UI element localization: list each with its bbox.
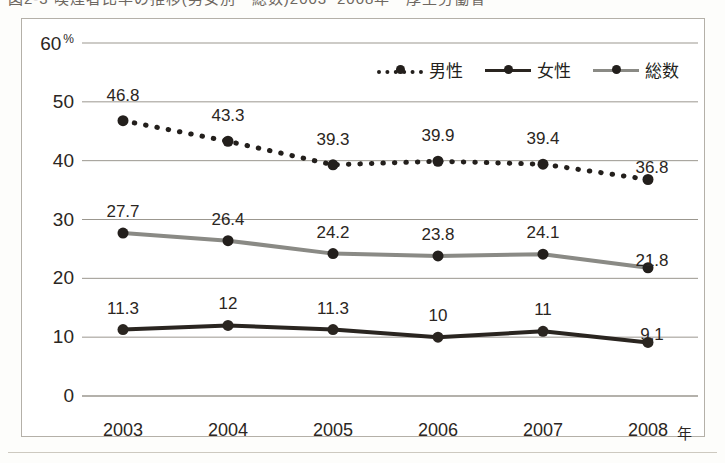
marker-総数-2003 [118, 228, 129, 239]
data-label-総数-2004: 26.4 [188, 211, 268, 228]
y-tick-0: 0 [28, 386, 74, 405]
marker-女性-2007 [538, 326, 549, 337]
data-label-女性-2004: 12 [188, 295, 268, 312]
legend-label: 男性 [429, 57, 463, 82]
legend-label: 総数 [645, 57, 679, 82]
marker-男性-2005 [328, 159, 339, 170]
legend-item-総数: 総数 [593, 57, 679, 82]
marker-女性-2006 [433, 332, 444, 343]
y-axis-percent-symbol: % [63, 32, 74, 46]
legend-marker-icon-女性 [485, 64, 531, 76]
chart-legend: 男性女性総数 [377, 57, 679, 82]
data-label-総数-2007: 24.1 [503, 224, 583, 241]
data-label-男性-2006: 39.9 [398, 127, 478, 144]
y-tick-40: 40 [28, 151, 74, 170]
data-label-男性-2003: 46.8 [83, 87, 163, 104]
data-label-男性-2004: 43.3 [188, 107, 268, 124]
marker-男性-2007 [538, 159, 549, 170]
data-label-女性-2007: 11 [503, 301, 583, 318]
marker-男性-2004 [223, 136, 234, 147]
x-tick-2003: 2003 [78, 420, 168, 441]
cropped-title-text: 図2-3 喫煙者比率の推移(男女別・総数)2003~2008年・厚生労働省 [8, 0, 486, 8]
data-label-女性-2005: 11.3 [293, 300, 373, 317]
series-line-女性 [123, 325, 648, 342]
legend-dot-icon [504, 65, 513, 74]
data-label-総数-2003: 27.7 [83, 203, 163, 220]
marker-女性-2004 [223, 320, 234, 331]
marker-総数-2004 [223, 235, 234, 246]
y-tick-10: 10 [28, 327, 74, 346]
legend-item-男性: 男性 [377, 57, 463, 82]
legend-marker-icon-男性 [377, 64, 423, 76]
legend-label: 女性 [537, 57, 571, 82]
data-label-総数-2008: 21.8 [612, 252, 692, 269]
marker-女性-2005 [328, 324, 339, 335]
cropped-title-sliver: 図2-3 喫煙者比率の推移(男女別・総数)2003~2008年・厚生労働省 [0, 0, 725, 9]
x-tick-2005: 2005 [288, 420, 378, 441]
y-tick-20: 20 [28, 268, 74, 287]
marker-男性-2006 [433, 156, 444, 167]
x-tick-2007: 2007 [498, 420, 588, 441]
y-tick-50: 50 [28, 92, 74, 111]
legend-dot-icon [612, 65, 621, 74]
legend-item-女性: 女性 [485, 57, 571, 82]
marker-総数-2005 [328, 248, 339, 259]
data-label-男性-2007: 39.4 [503, 130, 583, 147]
y-tick-30: 30 [28, 210, 74, 229]
data-label-男性-2008: 36.8 [612, 159, 692, 176]
marker-女性-2003 [118, 324, 129, 335]
marker-男性-2003 [118, 115, 129, 126]
marker-総数-2006 [433, 250, 444, 261]
data-label-総数-2006: 23.8 [398, 226, 478, 243]
x-tick-2006: 2006 [393, 420, 483, 441]
x-axis-unit-label: 年 [677, 422, 692, 443]
scan-artifact-line [8, 452, 717, 453]
x-tick-2004: 2004 [183, 420, 273, 441]
legend-dot-icon [396, 65, 405, 74]
data-label-女性-2008: 9.1 [612, 326, 692, 343]
chart-frame: 0102030405060% 200320042005200620072008 … [21, 18, 705, 437]
data-label-女性-2006: 10 [398, 307, 478, 324]
data-label-女性-2003: 11.3 [83, 300, 163, 317]
marker-総数-2007 [538, 249, 549, 260]
data-label-総数-2005: 24.2 [293, 224, 373, 241]
data-label-男性-2005: 39.3 [293, 131, 373, 148]
legend-marker-icon-総数 [593, 64, 639, 76]
y-tick-60: 60% [28, 33, 74, 53]
